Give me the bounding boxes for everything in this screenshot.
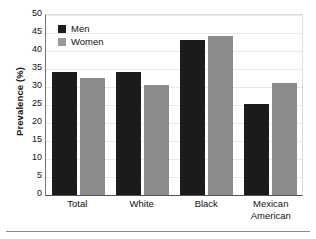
y-tick-50: 50 [32, 9, 42, 18]
x-tick-line: Black [174, 198, 239, 210]
y-tick-30: 30 [32, 81, 42, 90]
legend-item-women: Women [58, 35, 104, 48]
bar-men-black [180, 40, 205, 195]
x-tick-line: White [110, 198, 175, 210]
y-tick-5: 5 [37, 171, 42, 180]
y-tick-0: 0 [37, 189, 42, 198]
x-axis-tick-labels: TotalWhiteBlackMexicanAmerican [45, 198, 303, 221]
bar-men-total [52, 72, 77, 195]
bar-group-black [174, 15, 238, 195]
x-tick-black: Black [174, 198, 239, 221]
y-tick-10: 10 [32, 153, 42, 162]
legend-label-men: Men [71, 23, 89, 35]
bottom-divider [6, 231, 310, 232]
legend-item-men: Men [58, 22, 104, 35]
y-tick-40: 40 [32, 45, 42, 54]
x-tick-line: American [239, 210, 304, 222]
bar-women-white [144, 85, 169, 195]
x-tick-white: White [110, 198, 175, 221]
legend-swatch-men [58, 25, 66, 33]
y-tick-25: 25 [32, 99, 42, 108]
bar-men-white [116, 72, 141, 195]
legend-swatch-women [58, 38, 66, 46]
bar-group-mexican-american [238, 15, 302, 195]
legend: MenWomen [58, 22, 104, 48]
y-tick-15: 15 [32, 135, 42, 144]
y-tick-35: 35 [32, 63, 42, 72]
legend-label-women: Women [71, 36, 104, 48]
bar-women-mexican-american [272, 83, 297, 195]
y-tick-20: 20 [32, 117, 42, 126]
x-tick-line: Total [45, 198, 110, 210]
y-tick-45: 45 [32, 27, 42, 36]
bar-women-black [208, 36, 233, 195]
x-tick-mexican-american: MexicanAmerican [239, 198, 304, 221]
bar-group-white [110, 15, 174, 195]
bar-men-mexican-american [244, 104, 269, 195]
bar-women-total [80, 78, 105, 195]
y-axis-tick-labels: 50454035302520151050 [20, 13, 42, 196]
x-tick-line: Mexican [239, 198, 304, 210]
bar-chart-figure: Prevalence (%) 50454035302520151050 MenW… [0, 0, 316, 239]
x-tick-total: Total [45, 198, 110, 221]
